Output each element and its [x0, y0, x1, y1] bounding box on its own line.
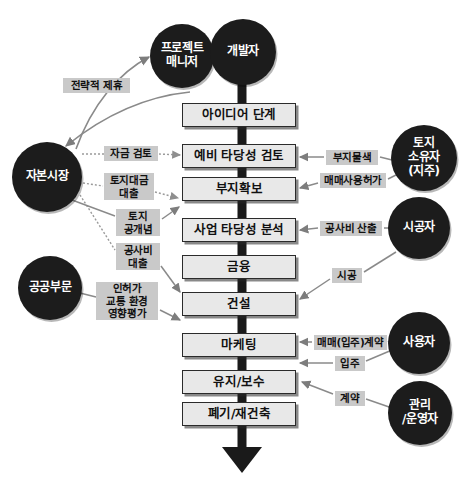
- tag-move-in: 입주: [335, 356, 365, 371]
- process-step-landsecure[interactable]: 부지확보: [182, 177, 296, 201]
- process-step-maintenance[interactable]: 유지/보수: [182, 370, 296, 394]
- actor-project-manager[interactable]: 프로젝트 매니저: [150, 24, 214, 88]
- arrow-estimate-to-feasibility: [300, 228, 318, 230]
- actor-public-sector[interactable]: 공공부문: [18, 256, 82, 320]
- process-step-marketing[interactable]: 마케팅: [182, 333, 296, 357]
- tag-land-public-concept: 토지 공개념: [116, 209, 160, 236]
- tag-cost-estimate: 공사비 산출: [320, 221, 382, 236]
- tag-permit-impact: 인허가 교통 환경 영향평가: [96, 282, 158, 320]
- process-step-feasibility[interactable]: 사업 타당성 분석: [182, 218, 296, 242]
- actor-end-user[interactable]: 사용자: [388, 312, 450, 374]
- link-landowner-permit: [388, 175, 396, 179]
- actor-capital-market[interactable]: 자본시장: [12, 142, 82, 212]
- arrow-fundreview-to-prefeas: [159, 154, 180, 155]
- arrow-contract-to-maintenance: [302, 382, 333, 394]
- arrow-landconcept-to-site: [162, 207, 179, 219]
- diagram-canvas: 아이디어 단계예비 타당성 검토부지확보사업 타당성 분석금융건설마케팅유지/보…: [0, 0, 472, 499]
- arrow-capital-to-pm: [76, 57, 149, 149]
- tag-land-payment-loan: 토지대금 대출: [104, 173, 154, 200]
- arrow-permit-to-landsecure: [300, 183, 318, 188]
- arrow-permit-to-marketing: [160, 310, 180, 320]
- arrow-work-to-construct: [300, 279, 330, 299]
- actor-landowner[interactable]: 토지 소유자 (지주): [391, 125, 457, 191]
- tag-construction-loan: 공사비 대출: [116, 243, 160, 270]
- tag-site-search: 부지물색: [326, 150, 378, 165]
- link-contractor-work: [364, 252, 396, 272]
- process-step-demolish[interactable]: 폐기/재건축: [182, 402, 296, 426]
- link-capital-constloan: [80, 195, 115, 250]
- process-step-finance[interactable]: 금융: [182, 255, 296, 279]
- process-step-prefeas[interactable]: 예비 타당성 검토: [182, 144, 296, 168]
- tag-fund-review: 자금 검토: [104, 146, 158, 161]
- tag-contract: 계약: [335, 391, 365, 406]
- tag-sale-use-permit: 매매사용허가: [320, 173, 386, 188]
- actor-operator[interactable]: 관리 /운영자: [388, 381, 452, 445]
- arrow-landloan-to-landsecure: [155, 192, 178, 198]
- tag-construction-work: 시공: [332, 268, 362, 283]
- arrow-constloan-to-construct: [161, 266, 180, 292]
- process-flow-arrowhead: [222, 447, 262, 473]
- tag-strategic-alliance: 전략적 제휴: [63, 78, 130, 93]
- actor-developer[interactable]: 개발자: [210, 19, 276, 85]
- link-public-permit: [80, 293, 96, 297]
- link-capital-landloan: [83, 183, 103, 186]
- link-user-movein: [366, 350, 392, 361]
- process-step-construct[interactable]: 건설: [182, 292, 296, 316]
- arrow-pm-to-capital: [66, 92, 190, 146]
- link-capital-landconcept: [72, 200, 115, 216]
- tag-purchase-contract: 매매(입주)계약: [314, 335, 387, 350]
- process-step-idea[interactable]: 아이디어 단계: [182, 103, 296, 127]
- actor-contractor[interactable]: 시공자: [388, 197, 450, 259]
